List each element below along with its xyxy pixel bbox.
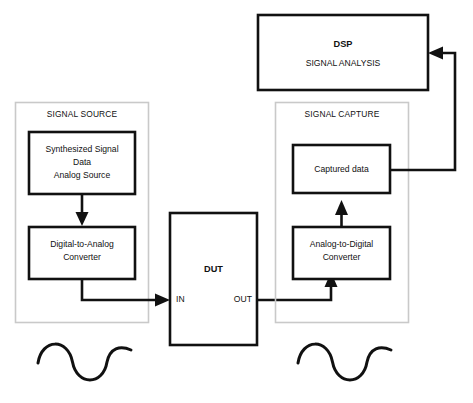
- block-synthesized-source-line2: Data: [73, 157, 91, 167]
- block-synthesized-source-line1: Synthesized Signal: [45, 144, 118, 154]
- block-dsp-title: DSP: [334, 39, 353, 49]
- arrowhead-captured-data-in: [335, 200, 348, 215]
- wire-dac-to-dut-in: [82, 279, 159, 300]
- block-dut-port-in: IN: [176, 294, 185, 304]
- block-diagram: SIGNAL SOURCE Synthesized Signal Data An…: [0, 0, 473, 403]
- block-dut-title: DUT: [204, 264, 223, 274]
- panel-signal-capture-label: SIGNAL CAPTURE: [305, 109, 380, 119]
- block-dac-line2: Converter: [63, 252, 101, 262]
- arrowhead-source-to-dac: [76, 212, 89, 226]
- block-dsp-subtitle: SIGNAL ANALYSIS: [306, 58, 381, 68]
- block-captured-data-line1: Captured data: [314, 164, 369, 174]
- arrowhead-dsp-in: [428, 47, 443, 60]
- block-adc-line1: Analog-to-Digital: [310, 239, 374, 249]
- panel-signal-source-label: SIGNAL SOURCE: [47, 109, 118, 119]
- wire-dut-out-to-adc: [257, 284, 331, 300]
- block-adc-line2: Converter: [323, 252, 361, 262]
- block-dut: [170, 213, 257, 345]
- source-sine-wave: [38, 344, 131, 380]
- diagram-canvas: SIGNAL SOURCE Synthesized Signal Data An…: [0, 0, 473, 403]
- block-dut-port-out: OUT: [234, 294, 253, 304]
- arrowhead-dut-in: [155, 294, 170, 307]
- block-dsp: [258, 15, 428, 90]
- block-synthesized-source-line3: Analog Source: [54, 170, 111, 180]
- capture-sine-wave: [298, 344, 391, 380]
- block-dac-line1: Digital-to-Analog: [50, 239, 114, 249]
